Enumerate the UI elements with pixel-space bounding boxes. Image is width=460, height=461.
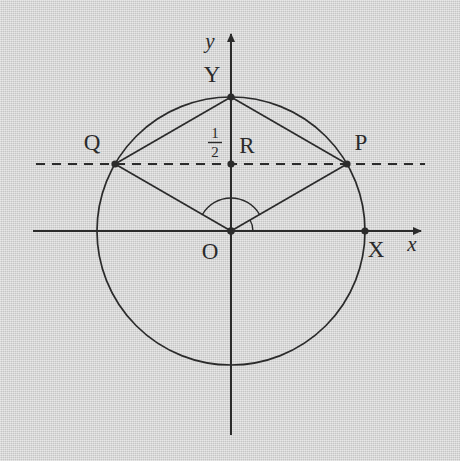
point-dot-P — [343, 160, 350, 167]
point-label-P: P — [355, 130, 368, 155]
diagram-canvas: Y Q R P O X y x 1 2 — [0, 0, 460, 461]
fraction-one-half-label: 1 2 — [208, 125, 222, 160]
segment-O-Q — [115, 164, 231, 231]
angle-arc-XOP — [250, 220, 253, 231]
point-label-O: O — [202, 239, 219, 264]
point-dot-Q — [111, 160, 118, 167]
point-dot-Y — [227, 93, 234, 100]
point-dot-X — [361, 227, 368, 234]
point-label-X: X — [368, 237, 385, 262]
point-label-Q: Q — [84, 130, 101, 155]
point-label-Y: Y — [204, 62, 221, 87]
point-dot-O — [227, 227, 235, 235]
y-axis-label: y — [203, 29, 215, 53]
point-label-R: R — [239, 133, 255, 158]
fraction-denominator: 2 — [211, 144, 219, 160]
fraction-numerator: 1 — [211, 125, 219, 141]
x-axis-label: x — [406, 232, 417, 256]
segment-O-P — [231, 164, 347, 231]
point-dot-R — [227, 160, 234, 167]
geometry-diagram: Y Q R P O X y x 1 2 — [0, 0, 460, 461]
